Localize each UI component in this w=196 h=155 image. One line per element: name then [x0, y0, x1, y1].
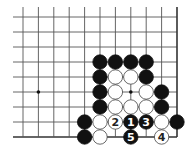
white-stone: [124, 70, 138, 84]
white-stone-move-4: 4: [154, 130, 168, 144]
black-stone: [93, 100, 107, 114]
black-stone: [77, 130, 91, 144]
stones-layer: 21354: [77, 55, 184, 144]
move-number: 5: [127, 131, 135, 144]
black-stone: [139, 70, 153, 84]
move-number: 1: [127, 116, 135, 129]
black-stone: [93, 55, 107, 69]
white-stone: [108, 85, 122, 99]
white-stone: [108, 70, 122, 84]
white-stone: [93, 130, 107, 144]
white-stone: [93, 115, 107, 129]
black-stone: [139, 55, 153, 69]
move-number: 4: [158, 131, 166, 144]
white-stone: [108, 100, 122, 114]
go-board: 21354: [0, 0, 196, 155]
move-number: 3: [142, 116, 150, 129]
star-point: [129, 90, 133, 94]
white-stone: [139, 100, 153, 114]
star-point: [37, 90, 41, 94]
black-stone-move-5: 5: [124, 130, 138, 144]
black-stone: [124, 55, 138, 69]
white-stone: [154, 115, 168, 129]
white-stone: [139, 85, 153, 99]
white-stone: [124, 100, 138, 114]
black-stone: [170, 115, 184, 129]
move-number: 2: [112, 116, 120, 129]
white-stone-move-2: 2: [108, 115, 122, 129]
black-stone: [77, 115, 91, 129]
black-stone: [93, 70, 107, 84]
black-stone: [108, 55, 122, 69]
black-stone: [154, 85, 168, 99]
black-stone-move-3: 3: [139, 115, 153, 129]
black-stone-move-1: 1: [124, 115, 138, 129]
black-stone: [93, 85, 107, 99]
black-stone: [154, 100, 168, 114]
